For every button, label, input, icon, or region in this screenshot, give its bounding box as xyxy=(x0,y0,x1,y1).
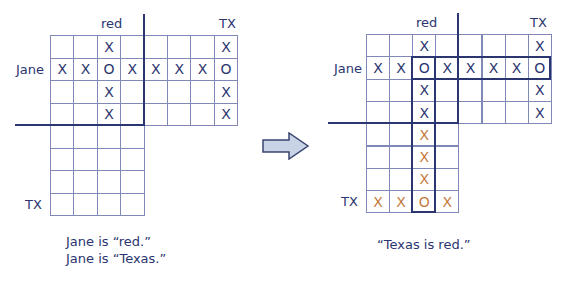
grid-cell xyxy=(366,79,390,102)
grid-cell: X xyxy=(482,56,506,79)
grid-cell xyxy=(505,34,529,57)
grid-cell xyxy=(435,168,459,191)
grid-cell xyxy=(50,80,74,104)
grid-cell xyxy=(120,103,144,127)
grid-cell: O xyxy=(97,58,121,82)
grid-cell xyxy=(50,148,74,172)
right-row-label-jane: Jane xyxy=(334,62,362,75)
grid-cell: X xyxy=(528,34,552,57)
grid-cell xyxy=(458,34,482,57)
grid-cell: X xyxy=(389,190,413,213)
grid-cell xyxy=(120,148,144,172)
grid-cell xyxy=(144,35,168,59)
grid-cell xyxy=(190,35,214,59)
grid-cell xyxy=(73,103,97,127)
grid-cell xyxy=(435,34,459,57)
grid-cell: O xyxy=(412,190,436,213)
grid-cell xyxy=(458,79,482,102)
grid-cell xyxy=(73,148,97,172)
grid-cell xyxy=(505,101,529,124)
grid-cell: X xyxy=(167,58,191,82)
grid-cell: X xyxy=(97,103,121,127)
grid-cell xyxy=(482,34,506,57)
right-horizontal-divider xyxy=(328,122,459,124)
grid-cell: O xyxy=(214,58,238,82)
left-row-label-jane: Jane xyxy=(16,63,44,76)
grid-cell xyxy=(144,103,168,127)
grid-cell: X xyxy=(366,190,390,213)
grid-cell: X xyxy=(412,101,436,124)
grid-cell xyxy=(190,80,214,104)
grid-cell xyxy=(50,193,74,217)
grid-cell: X xyxy=(412,79,436,102)
grid-cell: X xyxy=(73,58,97,82)
right-col-label-red: red xyxy=(416,16,437,29)
grid-cell xyxy=(366,101,390,124)
grid-cell: X xyxy=(412,123,436,146)
left-horizontal-divider xyxy=(15,124,145,126)
grid-cell xyxy=(97,170,121,194)
grid-cell xyxy=(366,123,390,146)
grid-cell xyxy=(97,148,121,172)
left-caption-line1: Jane is “red.” xyxy=(66,233,151,250)
grid-cell xyxy=(389,123,413,146)
grid-cell xyxy=(435,146,459,169)
right-caption: “Texas is red.” xyxy=(377,236,471,253)
right-arrow-icon xyxy=(262,132,310,164)
left-col-label-tx: TX xyxy=(219,17,236,30)
grid-cell xyxy=(190,103,214,127)
grid-cell xyxy=(97,125,121,149)
grid-cell xyxy=(366,168,390,191)
grid-cell: X xyxy=(412,34,436,57)
grid-cell: X xyxy=(528,101,552,124)
grid-cell xyxy=(120,193,144,217)
grid-cell xyxy=(167,80,191,104)
grid-cell xyxy=(389,101,413,124)
grid-cell: X xyxy=(412,168,436,191)
left-row-label-tx: TX xyxy=(25,198,42,211)
grid-cell xyxy=(73,35,97,59)
grid-cell xyxy=(120,80,144,104)
right-vertical-divider xyxy=(457,13,459,124)
grid-cell: X xyxy=(214,35,238,59)
grid-cell: X xyxy=(97,80,121,104)
grid-cell xyxy=(120,125,144,149)
grid-cell: X xyxy=(505,56,529,79)
grid-cell xyxy=(50,170,74,194)
grid-cell: O xyxy=(528,56,552,79)
grid-cell xyxy=(167,35,191,59)
grid-cell: X xyxy=(435,56,459,79)
grid-cell xyxy=(458,101,482,124)
grid-cell xyxy=(482,101,506,124)
grid-cell xyxy=(50,35,74,59)
grid-cell: X xyxy=(389,56,413,79)
grid-cell xyxy=(167,103,191,127)
grid-cell xyxy=(120,35,144,59)
grid-cell xyxy=(50,103,74,127)
grid-cell xyxy=(73,80,97,104)
grid-cell xyxy=(389,146,413,169)
grid-cell: X xyxy=(50,58,74,82)
grid-cell: X xyxy=(214,80,238,104)
grid-cell xyxy=(50,125,74,149)
grid-cell xyxy=(505,79,529,102)
right-row-label-tx: TX xyxy=(341,195,358,208)
grid-cell: X xyxy=(97,35,121,59)
grid-cell: X xyxy=(144,58,168,82)
grid-cell xyxy=(366,146,390,169)
grid-cell: X xyxy=(214,103,238,127)
grid-cell xyxy=(366,34,390,57)
grid-cell xyxy=(120,170,144,194)
left-caption-line2: Jane is “Texas.” xyxy=(66,250,166,267)
right-col-label-tx: TX xyxy=(530,16,547,29)
grid-cell xyxy=(482,79,506,102)
left-vertical-divider xyxy=(143,14,145,126)
grid-cell xyxy=(97,193,121,217)
grid-cell: O xyxy=(412,56,436,79)
grid-cell: X xyxy=(435,190,459,213)
grid-cell: X xyxy=(366,56,390,79)
grid-cell xyxy=(435,123,459,146)
left-col-label-red: red xyxy=(101,17,122,30)
grid-cell xyxy=(389,79,413,102)
grid-cell xyxy=(435,79,459,102)
